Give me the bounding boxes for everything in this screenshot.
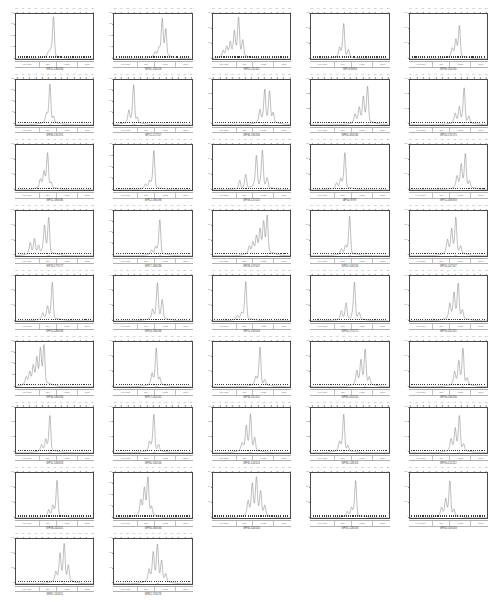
electropherogram-panel[interactable]: 3000200010000100110120130140150160170180… xyxy=(394,270,492,336)
plot-area[interactable]: 3500250015005000100110120130140150160170… xyxy=(102,8,192,60)
electropherogram-panel[interactable]: 3000200010000100110120130140150160170180… xyxy=(394,467,492,533)
electropherogram-panel[interactable]: 3000200010000100110120130140150160170180… xyxy=(0,402,98,468)
electropherogram-panel[interactable]: 3000200010000100110120130140150160170180… xyxy=(394,205,492,271)
trace-box[interactable]: 124 xyxy=(15,275,94,322)
trace-box[interactable]: 124 xyxy=(15,210,94,257)
trace-box[interactable]: 124 xyxy=(15,144,94,191)
electropherogram-panel[interactable]: 3500250015005000100110120130140150160170… xyxy=(98,74,196,140)
plot-area[interactable]: 3000200010000100110120130140150160170180… xyxy=(4,205,94,257)
trace-box[interactable]: 124 xyxy=(113,210,192,257)
electropherogram-panel[interactable]: 3500250015005000100110120130140150160170… xyxy=(98,139,196,205)
trace-box[interactable]: 124 xyxy=(212,144,291,191)
plot-area[interactable]: 3000200010000100110120130140150160170180… xyxy=(201,205,291,257)
electropherogram-panel[interactable]: 3000200010000100110120130140150160170180… xyxy=(197,270,295,336)
plot-area[interactable]: 3000200010000100110120130140150160170180… xyxy=(299,74,389,126)
plot-area[interactable]: 3000200010000100110120130140150160170180… xyxy=(201,270,291,322)
plot-area[interactable]: 3000200010000100110120130140150160170180… xyxy=(398,205,488,257)
trace-box[interactable]: 124 xyxy=(310,210,389,257)
trace-box[interactable]: 124 xyxy=(310,275,389,322)
trace-box[interactable]: 124 xyxy=(310,341,389,388)
trace-box[interactable]: 124 xyxy=(113,472,192,519)
plot-area[interactable]: 3000200010000100110120130140150160170180… xyxy=(102,270,192,322)
electropherogram-panel[interactable]: 3000200010000100110120130140150160170180… xyxy=(295,205,393,271)
electropherogram-panel[interactable]: 3000200010000100110120130140150160170180… xyxy=(197,139,295,205)
plot-area[interactable]: 3500250015005000100110120130140150160170… xyxy=(102,139,192,191)
trace-box[interactable]: 124 xyxy=(113,144,192,191)
electropherogram-panel[interactable]: 3000200010000100110120130140150160170180… xyxy=(0,139,98,205)
plot-area[interactable]: 3000200010000100110120130140150160170180… xyxy=(4,270,94,322)
trace-box[interactable]: 124 xyxy=(212,407,291,454)
plot-area[interactable]: 3000200010000100110120130140150160170180… xyxy=(4,467,94,519)
electropherogram-panel[interactable]: 3000200010000100110120130140150160170180… xyxy=(295,402,393,468)
trace-box[interactable]: 124 xyxy=(409,472,488,519)
trace-box[interactable]: 124 xyxy=(310,472,389,519)
plot-area[interactable]: 3000200010000100110120130140150160170180… xyxy=(201,74,291,126)
trace-box[interactable]: 124 xyxy=(113,13,192,60)
trace-box[interactable]: 124 xyxy=(409,13,488,60)
electropherogram-panel[interactable]: 4000300020001000010011012013014015016017… xyxy=(0,8,98,74)
trace-box[interactable]: 124 xyxy=(409,341,488,388)
plot-area[interactable]: 3000200010000100110120130140150160170180… xyxy=(299,336,389,388)
plot-area[interactable]: 3000200010000100110120130140150160170180… xyxy=(201,467,291,519)
plot-area[interactable]: 3000200010000100110120130140150160170180… xyxy=(4,402,94,454)
electropherogram-panel[interactable]: 3500250015005000100110120130140150160170… xyxy=(0,336,98,402)
plot-area[interactable]: 3000200010000100110120130140150160170180… xyxy=(102,402,192,454)
electropherogram-panel[interactable]: 3000200010000100110120130140150160170180… xyxy=(295,336,393,402)
electropherogram-panel[interactable]: 3500250015005000100110120130140150160170… xyxy=(0,74,98,140)
plot-area[interactable]: 3000200010000100110120130140150160170180… xyxy=(398,336,488,388)
trace-box[interactable]: 124 xyxy=(212,275,291,322)
plot-area[interactable]: 3500250015005000100110120130140150160170… xyxy=(102,205,192,257)
electropherogram-panel[interactable]: 3000200010000100110120130140150160170180… xyxy=(0,533,98,599)
plot-area[interactable]: 3000200010000100110120130140150160170180… xyxy=(299,467,389,519)
electropherogram-panel[interactable]: 3000200010000100110120130140150160170180… xyxy=(197,336,295,402)
electropherogram-panel[interactable]: 3000200010000100110120130140150160170180… xyxy=(98,270,196,336)
trace-box[interactable]: 124 xyxy=(212,210,291,257)
electropherogram-panel[interactable]: 3000200010000100110120130140150160170180… xyxy=(295,8,393,74)
trace-box[interactable]: 124 xyxy=(15,13,94,60)
trace-box[interactable]: 124 xyxy=(310,13,389,60)
trace-box[interactable]: 124 xyxy=(409,144,488,191)
electropherogram-panel[interactable]: 3000200010000100110120130140150160170180… xyxy=(98,402,196,468)
plot-area[interactable]: 3000200010000100110120130140150160170180… xyxy=(398,270,488,322)
electropherogram-panel[interactable]: 3000200010000100110120130140150160170180… xyxy=(394,8,492,74)
trace-box[interactable]: 124 xyxy=(212,341,291,388)
trace-box[interactable]: 124 xyxy=(113,407,192,454)
trace-box[interactable]: 124 xyxy=(409,210,488,257)
trace-box[interactable]: 124 xyxy=(113,275,192,322)
trace-box[interactable]: 124 xyxy=(310,79,389,126)
electropherogram-panel[interactable]: 3000200010000100110120130140150160170180… xyxy=(98,336,196,402)
electropherogram-panel[interactable]: 3000200010000100110120130140150160170180… xyxy=(394,402,492,468)
electropherogram-panel[interactable]: 3000200010000100110120130140150160170180… xyxy=(197,74,295,140)
plot-area[interactable]: 3000200010000100110120130140150160170180… xyxy=(299,402,389,454)
plot-area[interactable]: 3000200010000100110120130140150160170180… xyxy=(201,8,291,60)
plot-area[interactable]: 3000200010000100110120130140150160170180… xyxy=(299,205,389,257)
electropherogram-panel[interactable]: 3500250015005000100110120130140150160170… xyxy=(98,467,196,533)
electropherogram-panel[interactable]: 3000200010000100110120130140150160170180… xyxy=(295,270,393,336)
electropherogram-panel[interactable]: 3000200010000100110120130140150160170180… xyxy=(295,139,393,205)
trace-box[interactable]: 124 xyxy=(212,472,291,519)
plot-area[interactable]: 3000200010000100110120130140150160170180… xyxy=(201,402,291,454)
plot-area[interactable]: 3000200010000100110120130140150160170180… xyxy=(102,336,192,388)
trace-box[interactable]: 124 xyxy=(409,275,488,322)
electropherogram-panel[interactable]: 3000200010000100110120130140150160170180… xyxy=(197,402,295,468)
electropherogram-panel[interactable]: 3000200010000100110120130140150160170180… xyxy=(197,8,295,74)
plot-area[interactable]: 3000200010000100110120130140150160170180… xyxy=(398,402,488,454)
plot-area[interactable]: 4000300020001000010011012013014015016017… xyxy=(4,8,94,60)
electropherogram-panel[interactable]: 3000200010000100110120130140150160170180… xyxy=(0,270,98,336)
trace-box[interactable]: 124 xyxy=(212,13,291,60)
plot-area[interactable]: 3500250015005000100110120130140150160170… xyxy=(102,74,192,126)
electropherogram-panel[interactable]: 3000200010000100110120130140150160170180… xyxy=(394,336,492,402)
plot-area[interactable]: 3000200010000100110120130140150160170180… xyxy=(398,467,488,519)
plot-area[interactable]: 3000200010000100110120130140150160170180… xyxy=(398,139,488,191)
plot-area[interactable]: 3500250015005000100110120130140150160170… xyxy=(102,467,192,519)
trace-box[interactable]: 124 xyxy=(409,407,488,454)
electropherogram-panel[interactable]: 3000200010000100110120130140150160170180… xyxy=(295,74,393,140)
trace-box[interactable]: 124 xyxy=(310,407,389,454)
plot-area[interactable]: 3000200010000100110120130140150160170180… xyxy=(201,336,291,388)
plot-area[interactable]: 3000200010000100110120130140150160170180… xyxy=(4,139,94,191)
plot-area[interactable]: 3000200010000100110120130140150160170180… xyxy=(299,139,389,191)
plot-area[interactable]: 3000200010000100110120130140150160170180… xyxy=(299,8,389,60)
trace-box[interactable]: 124 xyxy=(15,79,94,126)
electropherogram-panel[interactable]: 3500250015005000100110120130140150160170… xyxy=(98,205,196,271)
electropherogram-panel[interactable]: 3000200010000100110120130140150160170180… xyxy=(197,467,295,533)
